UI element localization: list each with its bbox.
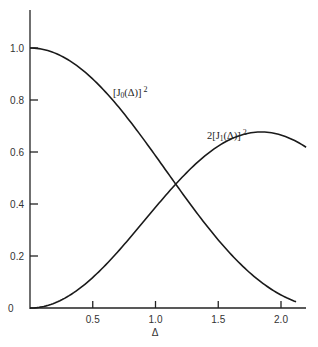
- two-j1-squared-curve: [30, 132, 306, 308]
- y-tick-label: 0.2: [10, 251, 24, 262]
- j0-squared-curve: [30, 48, 296, 302]
- y-tick-label: 1.0: [10, 43, 24, 54]
- j0-curve-label: [J0(Δ)]2: [113, 85, 148, 100]
- curves: [30, 48, 306, 308]
- y-tick-label: 0.6: [10, 147, 24, 158]
- axes: [30, 10, 306, 309]
- y-tick-label: 0.4: [10, 199, 24, 210]
- x-tick-label: 2.0: [274, 314, 288, 325]
- y-tick-label: 0: [8, 303, 14, 314]
- chart: 0.51.01.52.0 00.20.40.60.81.0 [J0(Δ)]2 2…: [0, 0, 318, 347]
- x-tick-label: 1.0: [149, 314, 163, 325]
- x-tick-label: 0.5: [86, 314, 100, 325]
- y-tick-label: 0.8: [10, 95, 24, 106]
- y-ticks: 00.20.40.60.81.0: [8, 43, 38, 314]
- x-ticks: 0.51.01.52.0: [86, 301, 289, 325]
- x-axis-label: Δ: [152, 327, 159, 338]
- x-tick-label: 1.5: [211, 314, 225, 325]
